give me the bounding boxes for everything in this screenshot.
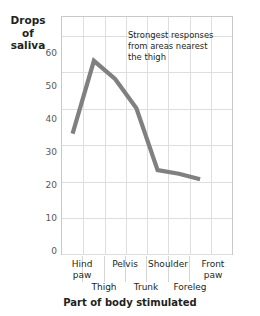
y-tick-label-0: 0 (33, 247, 57, 256)
x-label-pelvis-line-1: Pelvis (104, 259, 146, 270)
y-tick-label-40: 40 (33, 115, 57, 124)
y-tick-label-10: 10 (33, 214, 57, 223)
y-tick-label-60: 60 (33, 49, 57, 58)
x-label-foreleg: Foreleg (167, 282, 213, 293)
gridline-y-0 (62, 254, 232, 255)
annotation-line-1: Strongest responses (128, 30, 232, 41)
annotation-line-3: the thigh (128, 52, 232, 63)
y-axis-title-line-1: Drops (2, 14, 54, 27)
y-axis-title: Drops of saliva (2, 14, 54, 52)
x-label-shoulder: Shoulder (145, 259, 191, 270)
x-axis-title: Part of body stimulated (0, 297, 260, 308)
annotation-line-2: from areas nearest (128, 41, 232, 52)
x-label-pelvis: Pelvis (104, 259, 146, 270)
y-tick-label-20: 20 (33, 181, 57, 190)
x-label-shoulder-line-1: Shoulder (145, 259, 191, 270)
chart-container: Drops of saliva 60 50 40 30 20 10 0 (0, 0, 260, 316)
x-label-hind-paw: Hind paw (61, 259, 103, 280)
x-label-foreleg-text: Foreleg (167, 282, 213, 293)
x-label-trunk: Trunk (125, 282, 167, 293)
x-label-trunk-text: Trunk (125, 282, 167, 293)
x-label-hind-paw-line-2: paw (61, 270, 103, 281)
x-label-front-paw: Front paw (192, 259, 234, 280)
x-label-hind-paw-line-1: Hind (61, 259, 103, 270)
x-label-thigh: Thigh (83, 282, 125, 293)
y-tick-label-30: 30 (33, 148, 57, 157)
x-label-front-paw-line-2: paw (192, 270, 234, 281)
x-label-front-paw-line-1: Front (192, 259, 234, 270)
y-tick-label-50: 50 (33, 82, 57, 91)
chart-annotation: Strongest responses from areas nearest t… (128, 30, 232, 64)
x-label-thigh-text: Thigh (83, 282, 125, 293)
y-axis-title-line-2: of (2, 27, 54, 40)
